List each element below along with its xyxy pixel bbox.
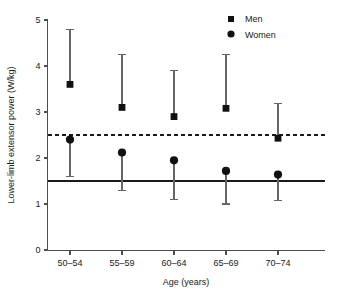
y-tick-label: 3 (35, 107, 40, 117)
legend-label-women: Women (245, 30, 276, 40)
x-tick-labels: 50–5455–5960–6465–6970–74 (57, 258, 290, 268)
y-tick-label: 1 (35, 199, 40, 209)
y-tick-label: 5 (35, 15, 40, 25)
x-tick-label: 70–74 (265, 258, 290, 268)
data-point-women (222, 167, 230, 175)
data-point-women (274, 170, 282, 178)
data-point-men (119, 104, 126, 111)
y-tick-label: 2 (35, 153, 40, 163)
data-point-men (223, 105, 230, 112)
data-point-women (66, 136, 74, 144)
y-tick-labels: 012345 (35, 15, 40, 255)
chart-legend: Men Women (227, 14, 275, 40)
x-tick-label: 65–69 (213, 258, 238, 268)
y-tick-label: 4 (35, 61, 40, 71)
series-women (66, 136, 282, 205)
y-axis-title: Lower-limb extensor power (W/kg) (6, 66, 16, 203)
data-point-men (275, 135, 282, 142)
reference-lines (48, 135, 326, 181)
x-axis: 50–5455–5960–6465–6970–74 Age (years) (48, 250, 326, 287)
data-point-women (170, 156, 178, 164)
data-point-women (118, 148, 126, 156)
data-point-men (171, 113, 178, 120)
scatter-plot: 012345 Lower-limb extensor power (W/kg) … (0, 0, 337, 293)
chart-figure: 012345 Lower-limb extensor power (W/kg) … (0, 0, 337, 293)
x-tick-label: 50–54 (57, 258, 82, 268)
x-tick-label: 60–64 (161, 258, 186, 268)
x-tick-label: 55–59 (109, 258, 134, 268)
y-tick-label: 0 (35, 245, 40, 255)
data-point-men (67, 81, 74, 88)
series-men (66, 29, 282, 141)
y-tick-marks (44, 20, 48, 250)
legend-marker-men (228, 16, 234, 22)
legend-label-men: Men (245, 14, 263, 24)
legend-marker-women (227, 30, 234, 37)
x-axis-title: Age (years) (163, 277, 210, 287)
y-axis: 012345 Lower-limb extensor power (W/kg) (6, 15, 48, 255)
